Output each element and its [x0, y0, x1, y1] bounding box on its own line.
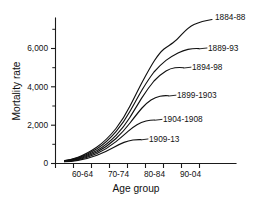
- y-axis-tick-labels: 0 2,000 4,000 6,000: [27, 43, 48, 168]
- series-label-1909-13: 1909-13: [149, 134, 180, 144]
- x-axis-tick-labels: 60-64 70-74 80-84 90-04: [72, 169, 202, 179]
- y-tick-label-6000: 6,000: [27, 43, 48, 53]
- mortality-rate-line-chart: 0 2,000 4,000 6,000 60-64 70-74 80-84 90…: [0, 0, 272, 198]
- series-curve-1889-93: [65, 49, 200, 161]
- leader-1904-1908: [155, 119, 162, 120]
- series-label-1889-93: 1889-93: [208, 43, 239, 53]
- x-tick-label-70-74: 70-74: [108, 169, 130, 179]
- x-tick-label-90-04: 90-04: [180, 169, 202, 179]
- series-labels: 1884-88 1889-93 1894-98 1899-1903 1904-1…: [149, 12, 246, 144]
- series-curve-1904-1908: [65, 120, 155, 162]
- leader-1889-93: [200, 48, 208, 49]
- series-label-1899-1903: 1899-1903: [177, 90, 217, 100]
- y-axis-title: Mortality rate: [11, 61, 22, 120]
- chart-canvas: 0 2,000 4,000 6,000 60-64 70-74 80-84 90…: [0, 0, 272, 198]
- leader-1894-98: [184, 67, 191, 68]
- y-tick-label-0: 0: [43, 158, 48, 168]
- leader-1899-1903: [169, 95, 176, 96]
- x-axis-ticks: [56, 164, 200, 169]
- leader-1909-13: [142, 139, 149, 140]
- x-tick-label-60-64: 60-64: [72, 169, 94, 179]
- x-tick-label-80-84: 80-84: [144, 169, 166, 179]
- x-axis-title: Age group: [112, 183, 159, 194]
- y-tick-label-4000: 4,000: [27, 82, 48, 92]
- series-label-1904-1908: 1904-1908: [163, 114, 203, 124]
- y-tick-label-2000: 2,000: [27, 120, 48, 130]
- series-label-1894-98: 1894-98: [192, 62, 223, 72]
- series-label-1884-88: 1884-88: [215, 12, 246, 22]
